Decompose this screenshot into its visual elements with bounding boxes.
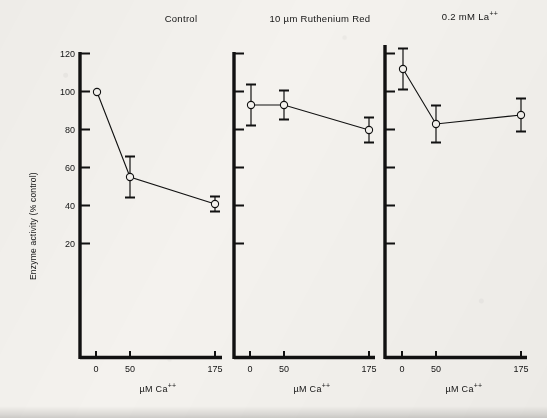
panel3-x-axis-title-base: µM Ca <box>446 384 474 394</box>
panel-control: Control 0 50 175 µM Ca++ <box>80 13 223 394</box>
y-tick-label-40: 40 <box>65 201 75 211</box>
panel-control-x-label-0: 0 <box>93 364 98 374</box>
y-tick-label-20: 20 <box>65 239 75 249</box>
enzyme-activity-figure: Enzyme activity (% control) 120 100 80 6… <box>0 0 547 418</box>
panel-control-x-axis-title-sup: ++ <box>168 382 177 389</box>
panel3-x-label-50: 50 <box>431 364 441 374</box>
panel-control-series-line <box>97 92 215 204</box>
panel2-x-label-0: 0 <box>247 364 252 374</box>
y-tick-label-120: 120 <box>60 49 75 59</box>
panel3-x-axis-title-sup: ++ <box>474 382 483 389</box>
panel-lanthanum-title-sup: ++ <box>489 10 498 17</box>
panel-lanthanum-x-axis-title: µM Ca++ <box>446 382 483 394</box>
y-axis-title-group: Enzyme activity (% control) <box>28 172 38 280</box>
panel-lanthanum-point-1 <box>432 120 439 127</box>
panel2-x-label-50: 50 <box>279 364 289 374</box>
panel-lanthanum-title: 0.2 mM La++ <box>442 10 498 22</box>
y-tick-label-80: 80 <box>65 125 75 135</box>
panel-control-point-0 <box>93 88 100 95</box>
panel-ruthenium-red-series-line <box>251 105 369 130</box>
panel-ruthenium-red-point-0 <box>247 101 254 108</box>
panel-lanthanum-point-0 <box>399 65 406 72</box>
panel-control-point-2 <box>211 200 218 207</box>
panel-lanthanum: 0.2 mM La++ 0 50 175 µM Ca++ <box>385 10 529 394</box>
y-axis-title: Enzyme activity (% control) <box>28 172 38 280</box>
panel2-x-axis-title-base: µM Ca <box>294 384 322 394</box>
panel-control-title: Control <box>165 13 198 24</box>
y-tick-label-100: 100 <box>60 87 75 97</box>
panel-control-x-label-175: 175 <box>207 364 222 374</box>
panel-ruthenium-red-x-axis-title: µM Ca++ <box>294 382 331 394</box>
panel-control-x-axis-title: µM Ca++ <box>140 382 177 394</box>
panel-lanthanum-title-base: 0.2 mM La <box>442 11 490 22</box>
panel3-x-label-175: 175 <box>513 364 528 374</box>
panel-ruthenium-red-title: 10 µm Ruthenium Red <box>270 13 371 24</box>
panel-ruthenium-red-point-2 <box>365 126 372 133</box>
panel-ruthenium-red: 10 µm Ruthenium Red 0 50 175 µM Ca++ <box>234 13 377 394</box>
panel-control-x-axis-title-base: µM Ca <box>140 384 168 394</box>
panel2-x-axis-title-sup: ++ <box>322 382 331 389</box>
panel-control-x-label-50: 50 <box>125 364 135 374</box>
y-axis: 120 100 80 60 40 20 <box>60 49 90 359</box>
panel2-x-label-175: 175 <box>361 364 376 374</box>
panel-lanthanum-series-line <box>403 69 521 124</box>
y-tick-label-60: 60 <box>65 163 75 173</box>
panel-lanthanum-point-2 <box>517 111 524 118</box>
panel-ruthenium-red-point-1 <box>280 101 287 108</box>
panel-control-point-1 <box>126 173 133 180</box>
panel3-x-label-0: 0 <box>399 364 404 374</box>
